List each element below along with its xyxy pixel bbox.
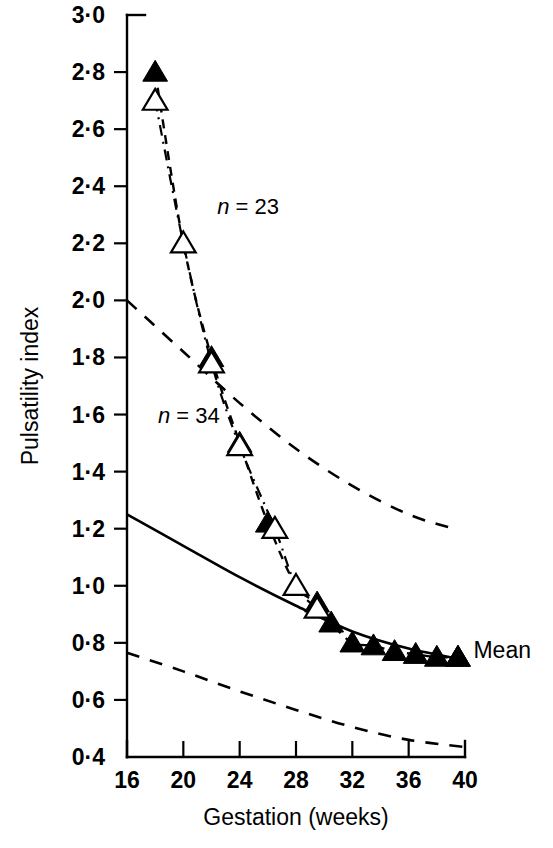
x-axis-tick-label: 16 (114, 767, 140, 793)
reference-curve-lower-limit (127, 653, 465, 747)
mean-label: Mean (473, 637, 531, 663)
x-axis-tick-label: 40 (452, 767, 478, 793)
x-axis-tick-label: 20 (171, 767, 197, 793)
y-axis-tick-label: 2·2 (72, 230, 105, 256)
sample-size-annotation: n = 34 (158, 403, 220, 428)
y-axis-tick-label: 0·8 (72, 630, 105, 656)
y-axis-tick-label: 0·4 (72, 744, 105, 770)
sample-size-value: = 34 (170, 403, 220, 428)
y-axis-tick-label: 1·8 (72, 344, 105, 370)
y-axis-tick-label: 2·8 (72, 59, 105, 85)
x-axis-tick-label: 32 (340, 767, 366, 793)
y-axis-tick-label: 0·6 (72, 687, 105, 713)
y-axis-tick-label: 1·0 (72, 573, 105, 599)
y-axis-tick-label: 1·6 (72, 402, 105, 428)
sample-size-symbol: n (217, 194, 229, 219)
open-triangle-marker (227, 434, 252, 455)
y-axis-title: Pulsatility index (17, 306, 43, 465)
x-axis-tick-label: 28 (283, 767, 309, 793)
y-axis-tick-label: 2·0 (72, 287, 105, 313)
sample-size-value: = 23 (229, 194, 279, 219)
pulsatility-index-chart: 3·02·82·62·42·22·01·81·61·41·21·00·80·60… (0, 0, 553, 848)
series-line-open-triangles (155, 101, 317, 609)
sample-size-annotation: n = 23 (217, 194, 279, 219)
y-axis-tick-label: 1·4 (72, 459, 105, 485)
open-triangle-marker (171, 232, 196, 253)
y-axis-tick-label: 2·6 (72, 116, 105, 142)
chart-svg: 3·02·82·62·42·22·01·81·61·41·21·00·80·60… (0, 0, 553, 848)
y-axis-tick-label: 2·4 (72, 173, 105, 199)
y-axis-tick-label: 3·0 (72, 2, 105, 28)
x-axis-tick-label: 36 (396, 767, 422, 793)
x-axis-tick-label: 24 (227, 767, 253, 793)
x-axis-title: Gestation (weeks) (203, 804, 388, 830)
open-triangle-marker (143, 89, 168, 110)
sample-size-symbol: n (158, 403, 170, 428)
filled-triangle-marker (143, 60, 168, 81)
open-triangle-marker (284, 574, 309, 595)
y-axis-tick-label: 1·2 (72, 516, 105, 542)
